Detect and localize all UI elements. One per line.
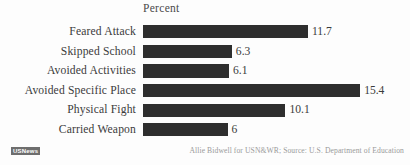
bar-value-label: 6.3 [236, 42, 251, 62]
bar-value-label: 6.1 [233, 61, 248, 81]
bar-value-label: 10.1 [289, 100, 309, 120]
category-label: Avoided Specific Place [0, 81, 136, 101]
bar-row: Physical Fight10.1 [0, 100, 410, 120]
usnews-logo: USNews [11, 147, 40, 155]
bar-row: Skipped School6.3 [0, 42, 410, 62]
bar[interactable] [143, 45, 232, 58]
category-label: Skipped School [0, 42, 136, 62]
chart-footer: USNews Allie Bidwell for USN&WR; Source:… [0, 143, 410, 165]
bar[interactable] [143, 104, 285, 117]
bar[interactable] [143, 64, 229, 77]
category-label: Avoided Activities [0, 61, 136, 81]
credit-line: Allie Bidwell for USN&WR; Source: U.S. D… [189, 146, 404, 155]
bar-value-label: 15.4 [364, 81, 384, 101]
bar-row: Feared Attack11.7 [0, 22, 410, 42]
bar[interactable] [143, 25, 308, 38]
bar[interactable] [143, 84, 360, 97]
bar[interactable] [143, 123, 228, 136]
bar-value-label: 6 [232, 120, 238, 140]
plot-area: Feared Attack11.7Skipped School6.3Avoide… [0, 22, 410, 140]
bar-row: Carried Weapon6 [0, 120, 410, 140]
chart-title: Percent [143, 2, 180, 14]
category-label: Physical Fight [0, 100, 136, 120]
bar-row: Avoided Specific Place15.4 [0, 81, 410, 101]
category-label: Carried Weapon [0, 120, 136, 140]
category-label: Feared Attack [0, 22, 136, 42]
bar-value-label: 11.7 [312, 22, 332, 42]
bar-row: Avoided Activities6.1 [0, 61, 410, 81]
bar-chart: Percent Feared Attack11.7Skipped School6… [0, 0, 410, 165]
